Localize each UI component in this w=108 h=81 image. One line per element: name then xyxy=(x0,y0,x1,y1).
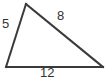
triangle-hypotenuse-side xyxy=(26,4,103,67)
triangle-figure: 5 8 12 xyxy=(0,0,108,81)
side-length-label-hypotenuse: 8 xyxy=(57,9,64,22)
triangle-left-side xyxy=(6,4,26,67)
side-length-label-left: 5 xyxy=(2,17,9,30)
side-length-label-base: 12 xyxy=(40,66,54,79)
